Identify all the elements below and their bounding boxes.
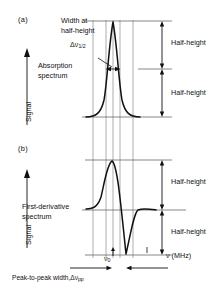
ptp-head-right [126,266,132,270]
signal-axis-head-a [24,48,30,57]
nu-zero-subscript: 0 [108,257,111,263]
derivative-label-line2: spectrum [22,213,52,221]
arrow-b-bottom-head-up [160,210,164,216]
peak-to-peak-arrows [70,266,168,270]
signal-axis-head-b [24,169,30,178]
panel-a-half-height-top: Half-height [171,39,206,47]
vertical-guide-lines [93,20,133,258]
ptp-head-left [107,266,113,270]
absorption-label-line2: spectrum [38,72,68,80]
panel-a-half-height-bottom: Half-height [171,89,206,97]
nu-zero-tick-head [111,247,115,251]
arrow-b-top-head-down [160,205,164,211]
arrow-a-bottom-head-down [160,112,164,118]
peak-to-peak-caption-base: Peak-to-peak width,Δν [12,274,78,281]
leader-line-delta-nu-half [98,58,112,67]
delta-nu-half-subscript: 1/2 [78,43,85,49]
nu-zero-label: ν0 [104,255,110,264]
panel-a-horizontal-reference-lines [82,21,172,117]
arrow-a-top-head-up [160,21,164,27]
arrow-a-top-head-down [160,64,164,70]
first-derivative-spectrum-curve [86,161,156,254]
panel-b-half-height-arrows [160,160,164,255]
arrow-a-bottom-head-up [160,69,164,75]
width-annotation-line1: Width at [61,17,87,25]
peak-to-peak-caption: Peak-to-peak width,Δνpp [12,274,84,283]
panel-b-horizontal-reference-lines [82,160,186,255]
x-axis-label: ν (MHz) [166,252,191,260]
panel-b-half-height-bottom: Half-height [171,228,206,236]
derivative-label-line1: First-derivative [22,203,69,211]
panel-b-half-height-top: Half-height [171,178,206,186]
arrow-b-top-head-up [160,160,164,166]
panel-a-tag: (a) [18,16,28,24]
panel-b-tag: (b) [18,145,28,153]
delta-nu-half-symbol: Δν1/2 [70,41,86,50]
spectroscopy-lineshape-figure: (a) Width at half-height Δν1/2 Absorptio… [0,0,213,294]
peak-to-peak-caption-subscript: pp [78,276,84,282]
width-annotation-line2: half-height [61,27,95,35]
arrow-b-bottom-head-down [160,250,164,256]
signal-axis-label-a: Signal [24,102,33,122]
absorption-label-line1: Absorption [38,62,72,70]
signal-axis-label-b: Signal [24,225,33,245]
